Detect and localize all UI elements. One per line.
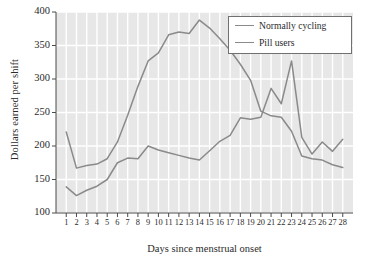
legend-item-normally-cycling: Normally cycling bbox=[235, 17, 351, 34]
y-tick-label: 150 bbox=[10, 173, 50, 184]
y-tick-label: 400 bbox=[10, 5, 50, 16]
chart-figure: Dollars earned per shift Days since mens… bbox=[0, 0, 380, 265]
legend-line-icon bbox=[235, 42, 254, 43]
legend-line-icon bbox=[235, 25, 254, 26]
y-tick-label: 100 bbox=[10, 206, 50, 217]
y-tick-label: 250 bbox=[10, 106, 50, 117]
legend-label: Pill users bbox=[259, 37, 294, 48]
y-tick-label: 300 bbox=[10, 72, 50, 83]
x-tick-label: 28 bbox=[335, 218, 351, 227]
chart-legend: Normally cycling Pill users bbox=[228, 16, 352, 54]
legend-label: Normally cycling bbox=[259, 20, 326, 31]
legend-item-pill-users: Pill users bbox=[235, 34, 351, 51]
y-tick-label: 350 bbox=[10, 39, 50, 50]
y-tick-label: 200 bbox=[10, 139, 50, 150]
